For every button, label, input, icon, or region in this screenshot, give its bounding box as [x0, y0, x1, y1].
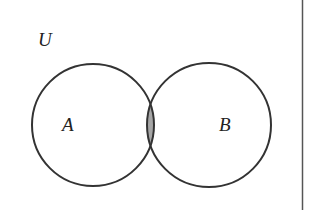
set-a-label: A: [62, 115, 74, 134]
set-a-circle: [32, 64, 154, 186]
set-b-circle: [147, 63, 271, 187]
universe-label: U: [38, 30, 52, 49]
set-b-label: B: [219, 115, 231, 134]
